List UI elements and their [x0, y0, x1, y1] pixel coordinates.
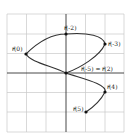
point-r4: [103, 90, 106, 93]
point-r-5: [64, 71, 67, 74]
label-r5: r⃗(5): [73, 105, 84, 112]
label-r4: r⃗(4): [107, 83, 118, 90]
curve-diagram: r⃗(0) r⃗(-2) r⃗(-3) r⃗(-5) = r⃗(2) r⃗(4)…: [0, 0, 134, 139]
label-r-2: r⃗(-2): [64, 24, 77, 31]
label-r-5: r⃗(-5) = r⃗(2): [81, 65, 113, 72]
point-r0: [24, 52, 27, 55]
label-r0: r⃗(0): [12, 45, 23, 52]
label-r-3: r⃗(-3): [108, 40, 121, 47]
point-r-3: [103, 42, 106, 45]
point-r5: [84, 110, 87, 113]
point-r-2: [64, 32, 67, 35]
